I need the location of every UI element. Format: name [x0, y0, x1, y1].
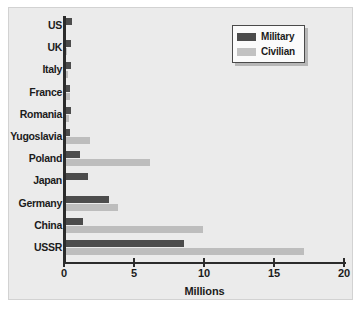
bar-civilian [66, 93, 70, 100]
bar-military [66, 129, 70, 136]
x-tick-label: 10 [198, 267, 210, 280]
legend-label-military: Military [261, 31, 294, 42]
bar-military [66, 62, 71, 69]
category-label: USSR [0, 241, 62, 253]
category-label: Italy [0, 63, 62, 75]
legend-label-civilian: Civilian [261, 46, 295, 57]
legend-swatch-civilian-icon [237, 48, 256, 56]
bar-military [66, 18, 72, 25]
x-tick-mark [203, 258, 205, 267]
category-label: Japan [0, 174, 62, 186]
category-label: US [0, 19, 62, 31]
bar-civilian [66, 159, 150, 166]
bar-civilian [66, 48, 67, 55]
bar-civilian [66, 137, 90, 144]
category-label: Romania [0, 108, 62, 120]
category-label: France [0, 86, 62, 98]
bar-military [66, 196, 109, 203]
x-tick-mark [343, 258, 345, 267]
bar-military [66, 218, 83, 225]
x-tick-label: 5 [131, 267, 137, 280]
bar-military [66, 40, 71, 47]
x-tick-label: 0 [61, 267, 67, 280]
x-tick-label: 15 [268, 267, 280, 280]
bar-civilian [66, 115, 69, 122]
legend-item-military: Military [237, 30, 294, 43]
x-tick-mark [133, 258, 135, 267]
x-axis-title: Millions [63, 285, 346, 297]
legend-swatch-military-icon [237, 33, 256, 41]
bar-military [66, 107, 71, 114]
bar-military [66, 240, 184, 247]
x-tick-label: 20 [338, 267, 350, 280]
bar-military [66, 85, 70, 92]
legend-item-civilian: Civilian [237, 45, 295, 58]
x-tick-mark [63, 258, 65, 267]
bar-civilian [66, 71, 68, 78]
category-label: Germany [0, 197, 62, 209]
category-label: China [0, 219, 62, 231]
bar-civilian [66, 248, 304, 255]
bar-civilian [66, 204, 118, 211]
category-label: Poland [0, 152, 62, 164]
category-label: Yugoslavia [0, 130, 62, 142]
chart-legend: Military Civilian [232, 25, 305, 63]
chart-figure: USUKItalyFranceRomaniaYugoslaviaPolandJa… [0, 0, 364, 309]
x-tick-mark [273, 258, 275, 267]
bar-military [66, 173, 88, 180]
bar-military [66, 151, 80, 158]
category-label: UK [0, 41, 62, 53]
bar-civilian [66, 226, 203, 233]
